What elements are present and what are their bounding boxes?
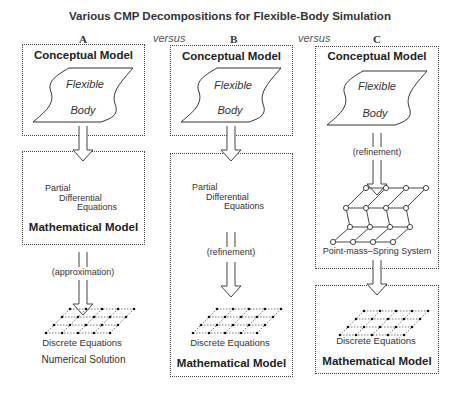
column-a-shape-text-2: Body [58,104,108,116]
grid-node [272,316,275,319]
column-a-pde-1: Partial [45,183,71,193]
column-c-conceptual-title: Conceptual Model [315,50,439,62]
grid-node [216,324,219,327]
grid-node [256,332,259,335]
column-b-pde-3: Equations [224,201,264,211]
grid-node [379,310,382,313]
grid-node [256,316,259,319]
grid-node [208,332,211,335]
grid-node [347,326,350,329]
point-mass-node [390,239,395,244]
column-b-pde-1: Partial [192,182,218,192]
point-mass-node [330,239,335,244]
grid-node [371,318,374,321]
grid-node [208,316,211,319]
column-c-spring-label: Point-mass–Spring System [315,246,439,256]
grid-node [264,308,267,311]
column-c-transition: (refinement) [327,147,427,157]
column-b-shape-text-1: Flexible [208,79,258,91]
point-mass-node [383,185,388,190]
grid-node [101,308,104,311]
grid-node [133,308,136,311]
grid-node [85,308,88,311]
arrow-c-spring-to-math [367,260,387,295]
point-mass-node [367,224,372,229]
grid-node [379,326,382,329]
arrow-a-conceptual-to-math [73,126,93,161]
grid-node [109,316,112,319]
point-mass-node [370,239,375,244]
grid-node [61,332,64,335]
grid-node [363,310,366,313]
grid-node [419,318,422,321]
column-b-conceptual-title: Conceptual Model [170,50,293,62]
grid-node [280,308,283,311]
column-a-grid-label: Discrete Equations [30,337,134,348]
grid-node [45,332,48,335]
column-a-pde-3: Equations [77,202,117,212]
grid-node [85,324,88,327]
grid-node [61,316,64,319]
arrow-b-refinement [221,262,241,297]
column-b-math-title: Mathematical Model [170,357,293,369]
grid-node [224,332,227,335]
spring-lattice [330,185,428,244]
grid-node [216,308,219,311]
grid-node [355,318,358,321]
point-mass-node [363,185,368,190]
grid-node [232,308,235,311]
grid-node [77,332,80,335]
discrete-grid-c [339,310,430,337]
grid-node [403,318,406,321]
grid-node [69,308,72,311]
grid-node [93,316,96,319]
column-b-transition: (refinement) [181,247,281,257]
arrow-b-conceptual-to-math [221,126,241,161]
column-c-grid-label: Discrete Equations [324,335,428,346]
point-mass-node [383,205,388,210]
column-c-shape-text-2: Body [350,107,400,119]
grid-node [200,324,203,327]
grid-node [192,332,195,335]
grid-node [69,324,72,327]
column-a-transition: (approximation) [33,267,133,277]
column-a-conceptual-title: Conceptual Model [22,49,145,61]
column-b-grid-label: Discrete Equations [178,337,282,348]
grid-node [411,310,414,313]
grid-node [101,324,104,327]
column-a-shape-text-1: Flexible [60,78,110,90]
grid-node [411,326,414,329]
discrete-grid-a [45,308,136,335]
grid-node [264,324,267,327]
point-mass-node [387,224,392,229]
grid-node [395,326,398,329]
grid-node [117,324,120,327]
arrow-a-approximation [73,280,93,315]
point-mass-node [407,224,412,229]
column-c-math-title: Mathematical Model [315,355,439,367]
grid-node [232,324,235,327]
column-a-bottom-label: Numerical Solution [22,354,145,365]
point-mass-node [343,205,348,210]
point-mass-node [403,185,408,190]
grid-node [427,310,430,313]
grid-node [125,316,128,319]
column-b-shape-text-2: Body [205,104,255,116]
point-mass-node [423,185,428,190]
grid-node [248,324,251,327]
grid-node [109,332,112,335]
column-c-shape-text-1: Flexible [352,80,402,92]
grid-node [240,316,243,319]
point-mass-node [363,205,368,210]
grid-node [387,318,390,321]
point-mass-node [350,239,355,244]
point-mass-node [347,224,352,229]
grid-node [248,308,251,311]
grid-node [240,332,243,335]
grid-node [224,316,227,319]
grid-node [53,324,56,327]
grid-node [77,316,80,319]
grid-node [117,308,120,311]
point-mass-node [403,205,408,210]
grid-node [93,332,96,335]
